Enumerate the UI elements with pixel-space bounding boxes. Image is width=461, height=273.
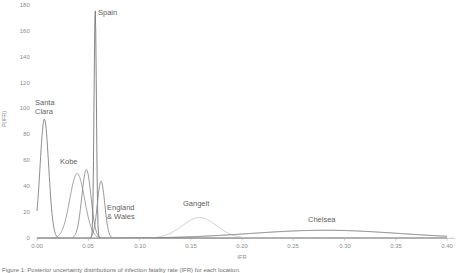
x-axis-label: IFR <box>222 254 262 260</box>
series-label-chelsea: Chelsea <box>308 215 336 224</box>
y-tick-20: 20 <box>8 209 30 215</box>
y-tick-100: 100 <box>8 105 30 111</box>
x-tick-0.15: 0.15 <box>178 243 204 249</box>
y-tick-140: 140 <box>8 54 30 60</box>
density-curves-svg <box>0 0 461 273</box>
density-curve-spain <box>37 11 447 238</box>
series-label-santa-clara: Santa Clara <box>35 98 55 116</box>
x-tick-0.10: 0.10 <box>127 243 153 249</box>
figure-caption: Figure 1: Posterior uncertainty distribu… <box>2 266 457 273</box>
x-tick-0.00: 0.00 <box>24 243 50 249</box>
x-tick-0.40: 0.40 <box>434 243 460 249</box>
x-tick-0.30: 0.30 <box>332 243 358 249</box>
figure-container: 180 160 140 120 100 80 60 40 20 0 0.00 0… <box>0 0 461 273</box>
y-tick-0: 0 <box>8 235 30 241</box>
series-label-england-and-wales: England & Wales <box>107 203 135 221</box>
x-tick-0.35: 0.35 <box>383 243 409 249</box>
chart-plot-area: 180 160 140 120 100 80 60 40 20 0 0.00 0… <box>0 0 461 273</box>
x-tick-0.05: 0.05 <box>75 243 101 249</box>
y-tick-160: 160 <box>8 28 30 34</box>
series-label-gangelt: Gangelt <box>183 199 209 208</box>
curve-group <box>37 11 447 238</box>
density-curve-santa-clara <box>37 119 447 238</box>
x-tick-0.20: 0.20 <box>229 243 255 249</box>
series-label-kobe: Kobe <box>60 157 78 166</box>
y-tick-40: 40 <box>8 183 30 189</box>
y-tick-180: 180 <box>8 2 30 8</box>
x-tick-0.25: 0.25 <box>280 243 306 249</box>
series-label-spain: Spain <box>98 8 117 17</box>
y-tick-80: 80 <box>8 131 30 137</box>
y-tick-60: 60 <box>8 157 30 163</box>
y-axis-label: P(IFR) <box>1 106 7 132</box>
y-tick-120: 120 <box>8 80 30 86</box>
